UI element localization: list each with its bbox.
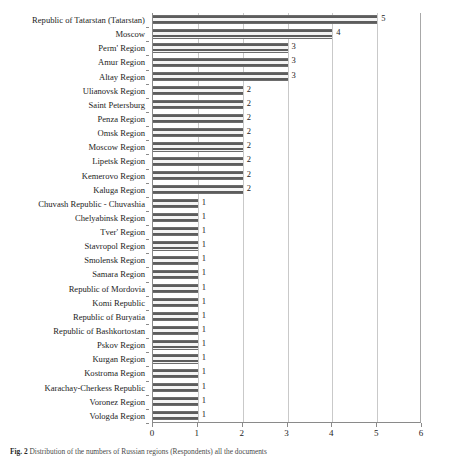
bar-value-label: 1 <box>202 266 206 280</box>
bar <box>153 100 243 109</box>
bar <box>153 29 332 38</box>
bar-row: 2 <box>153 183 420 197</box>
y-axis-tick-label: Voronez Region <box>90 395 145 409</box>
bar <box>153 397 198 406</box>
bar-row: 1 <box>153 225 420 239</box>
bar-value-label: 2 <box>247 125 251 139</box>
bar-row: 3 <box>153 41 420 55</box>
bar-value-label: 2 <box>247 139 251 153</box>
y-axis-tick-mark <box>146 169 149 170</box>
bar-value-label: 3 <box>292 40 296 54</box>
y-axis-tick-label: Tver' Region <box>100 225 145 239</box>
bar <box>153 15 377 24</box>
x-axis-tick-label: 5 <box>366 427 386 439</box>
bar-value-label: 1 <box>202 337 206 351</box>
y-axis-tick-label: Perm' Region <box>98 41 145 55</box>
x-axis-tick-label: 4 <box>321 427 341 439</box>
bar-chart: Republic of Tatarstan (Tatarstan)MoscowP… <box>0 0 465 440</box>
bar-value-label: 1 <box>202 210 206 224</box>
bar-row: 1 <box>153 211 420 225</box>
y-axis-tick-label: Omsk Region <box>97 126 145 140</box>
y-axis-tick-mark <box>146 70 149 71</box>
y-axis-tick-label: Republic of Tatarstan (Tatarstan) <box>32 13 145 27</box>
x-axis: 0123456 <box>152 423 421 439</box>
y-axis-tick-mark <box>146 140 149 141</box>
bar-value-label: 3 <box>292 54 296 68</box>
bar <box>153 86 243 95</box>
bar <box>153 270 198 279</box>
bar-value-label: 1 <box>202 351 206 365</box>
bar-value-label: 3 <box>292 69 296 83</box>
bar <box>153 171 243 180</box>
y-axis-tick-label: Kurgan Region <box>92 352 145 366</box>
x-axis-tick-label: 6 <box>411 427 431 439</box>
y-axis-tick-mark <box>146 296 149 297</box>
bar <box>153 227 198 236</box>
bar-value-label: 2 <box>247 97 251 111</box>
bar-value-label: 1 <box>202 309 206 323</box>
bar-row: 1 <box>153 296 420 310</box>
bar-row: 1 <box>153 239 420 253</box>
y-axis-tick-label: Pskov Region <box>97 338 145 352</box>
x-axis-tick-label: 3 <box>277 427 297 439</box>
y-axis-tick-label: Kemerovo Region <box>82 169 145 183</box>
y-axis-tick-mark <box>146 352 149 353</box>
y-axis-tick-mark <box>146 197 149 198</box>
bar <box>153 72 288 81</box>
bar-value-label: 1 <box>202 394 206 408</box>
figure-label: Fig. 2 <box>10 447 28 456</box>
figure-caption: Fig. 2 Distribution of the numbers of Ru… <box>10 447 460 463</box>
bar-row: 1 <box>153 409 420 423</box>
bar-row: 2 <box>153 112 420 126</box>
y-axis-tick-label: Altay Region <box>99 70 145 84</box>
bar-row: 1 <box>153 310 420 324</box>
y-axis-tick-mark <box>146 225 149 226</box>
bar-row: 5 <box>153 13 420 27</box>
bar <box>153 114 243 123</box>
figure-container: Republic of Tatarstan (Tatarstan)MoscowP… <box>0 0 465 463</box>
y-axis-tick-mark <box>146 84 149 85</box>
bar <box>153 256 198 265</box>
y-axis-tick-label: Stavropol Region <box>85 239 145 253</box>
y-axis-tick-label: Kostroma Region <box>84 366 145 380</box>
bar-value-label: 1 <box>202 365 206 379</box>
bar-value-label: 2 <box>247 182 251 196</box>
y-axis-tick-mark <box>146 211 149 212</box>
y-axis-tick-mark <box>146 310 149 311</box>
bar-value-label: 1 <box>202 408 206 422</box>
y-axis-tick-mark <box>146 98 149 99</box>
y-axis-tick-mark <box>146 154 149 155</box>
bar-row: 1 <box>153 282 420 296</box>
bar-value-label: 2 <box>247 153 251 167</box>
bar-value-label: 1 <box>202 281 206 295</box>
bar-value-label: 1 <box>202 380 206 394</box>
bar-row: 2 <box>153 169 420 183</box>
x-axis-tick-label: 0 <box>142 427 162 439</box>
bar-value-label: 1 <box>202 323 206 337</box>
bar <box>153 241 198 250</box>
bar-row: 3 <box>153 55 420 69</box>
bar <box>153 298 198 307</box>
y-axis-tick-mark <box>146 381 149 382</box>
y-axis-tick-label: Penza Region <box>98 112 146 126</box>
y-axis-tick-label: Vologda Region <box>90 409 145 423</box>
bar-row: 1 <box>153 267 420 281</box>
bar <box>153 312 198 321</box>
bar-value-label: 4 <box>336 26 340 40</box>
y-axis-tick-label: Saint Petersburg <box>89 98 145 112</box>
bar <box>153 369 198 378</box>
plot-area: 54333222222221111111111111111 <box>152 13 421 423</box>
bar-value-label: 2 <box>247 168 251 182</box>
bar <box>153 157 243 166</box>
y-axis-tick-label: Republic of Buryatia <box>73 310 145 324</box>
bar-value-label: 1 <box>202 238 206 252</box>
bar <box>153 142 243 151</box>
bar-value-label: 1 <box>202 252 206 266</box>
bar <box>153 128 243 137</box>
y-axis-tick-mark <box>146 395 149 396</box>
bar <box>153 354 198 363</box>
bar <box>153 185 243 194</box>
bar-row: 3 <box>153 70 420 84</box>
y-axis-tick-mark <box>146 112 149 113</box>
bar-row: 1 <box>153 324 420 338</box>
